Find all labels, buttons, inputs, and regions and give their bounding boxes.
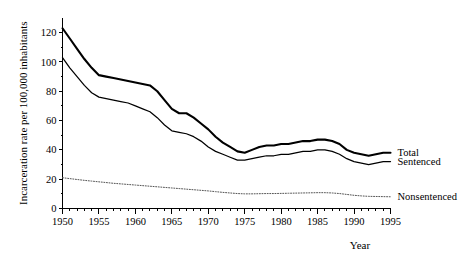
x-tick-label: 1990 bbox=[344, 216, 365, 227]
y-tick-label: 20 bbox=[46, 174, 57, 185]
x-tick-label: 1980 bbox=[271, 216, 292, 227]
y-tick-label: 60 bbox=[46, 115, 57, 126]
y-tick-label: 0 bbox=[51, 203, 56, 214]
x-tick-label: 1965 bbox=[161, 216, 182, 227]
x-tick-label: 1960 bbox=[125, 216, 146, 227]
incarceration-rate-line-chart: 020406080100120 195019551960196519701975… bbox=[0, 0, 462, 265]
y-tick-label: 120 bbox=[41, 27, 57, 38]
x-tick-label: 1970 bbox=[198, 216, 219, 227]
y-tick-label: 40 bbox=[46, 144, 57, 155]
series-label-sentenced: Sentenced bbox=[398, 156, 442, 167]
x-axis-ticks bbox=[63, 209, 391, 214]
series-line-total bbox=[63, 28, 391, 155]
axes bbox=[63, 18, 391, 209]
series-line-sentenced bbox=[63, 58, 391, 165]
y-axis-tick-labels: 020406080100120 bbox=[41, 27, 57, 214]
x-tick-label: 1950 bbox=[52, 216, 73, 227]
x-axis-title: Year bbox=[350, 239, 371, 251]
y-tick-label: 80 bbox=[46, 86, 57, 97]
series-labels: TotalSentencedNonsentenced bbox=[398, 147, 458, 202]
y-axis-title: Incarceration rate per 100,000 inhabitan… bbox=[17, 21, 29, 205]
x-axis-tick-labels: 1950195519601965197019751980198519901995 bbox=[52, 216, 401, 227]
data-series bbox=[63, 28, 391, 197]
x-tick-label: 1985 bbox=[307, 216, 328, 227]
x-tick-label: 1975 bbox=[234, 216, 255, 227]
series-line-nonsentenced bbox=[63, 178, 391, 197]
y-tick-label: 100 bbox=[41, 57, 57, 68]
y-axis-ticks bbox=[59, 33, 63, 209]
x-tick-label: 1995 bbox=[380, 216, 401, 227]
series-label-nonsentenced: Nonsentenced bbox=[398, 191, 458, 202]
chart-figure: 020406080100120 195019551960196519701975… bbox=[0, 0, 462, 265]
x-tick-label: 1955 bbox=[88, 216, 109, 227]
